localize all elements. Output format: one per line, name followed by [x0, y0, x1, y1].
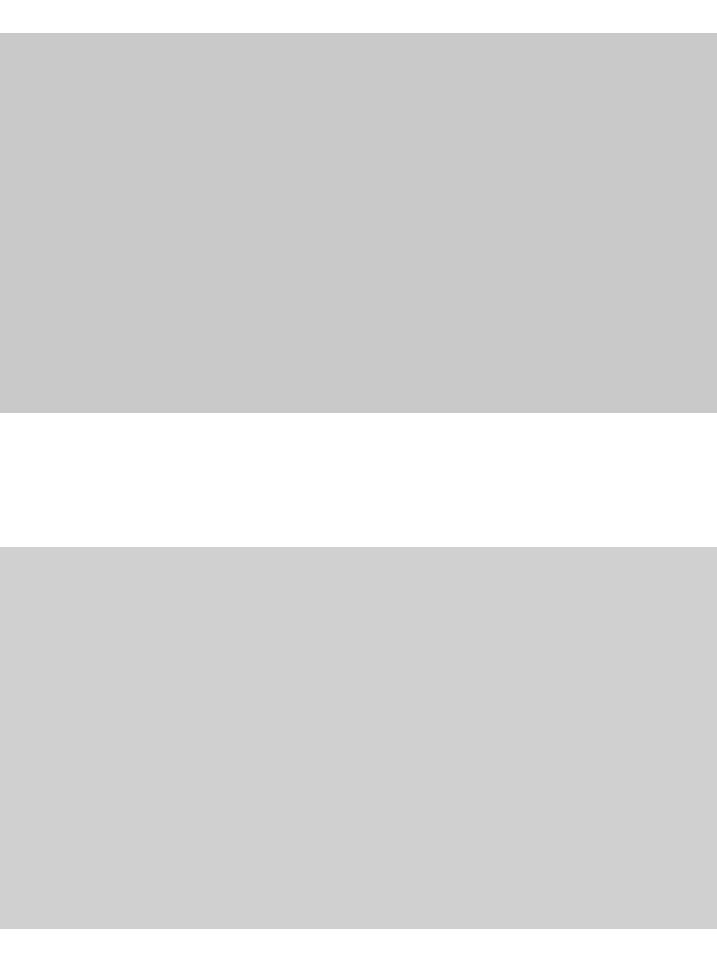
image-placeholder	[0, 33, 717, 413]
image-placeholder	[0, 547, 717, 929]
